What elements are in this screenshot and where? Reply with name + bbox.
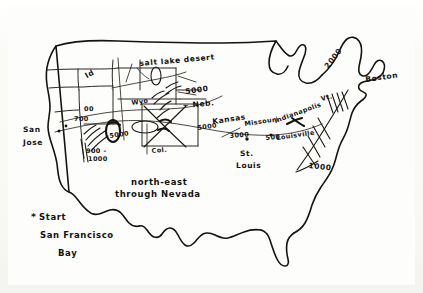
state-boundaries xyxy=(47,60,206,162)
route-line xyxy=(55,58,322,154)
us-outline xyxy=(46,37,384,266)
leader-lines xyxy=(126,64,240,137)
map-drawing xyxy=(0,0,423,293)
sketch-sheet: salt lake desert Id Wyo ~ Neb. Col. Kans… xyxy=(0,0,423,293)
